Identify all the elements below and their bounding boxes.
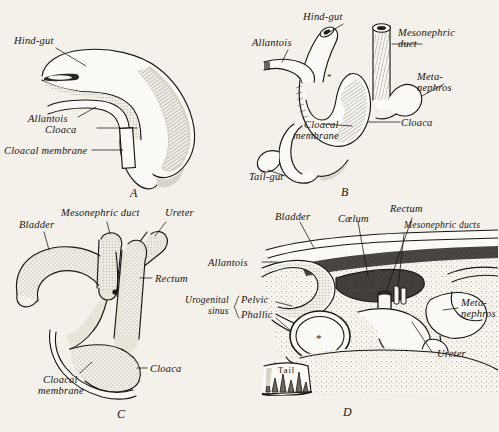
label-ureter-c: Ureter <box>165 207 195 218</box>
asterisk-marker-d: * <box>316 332 322 344</box>
label-hind-gut-a: Hind-gut <box>13 35 54 46</box>
panel-letter-c: C <box>117 407 126 421</box>
label-metanephros-line2-b: nephros <box>417 82 452 93</box>
label-mesonephric-duct-c: Mesonephric duct <box>60 207 141 218</box>
label-cloaca-b: Cloaca <box>401 117 433 128</box>
label-cloacal-membrane-line1-c: Cloacal <box>43 374 78 385</box>
label-hind-gut-b: Hind-gut <box>302 11 343 22</box>
label-cloacal-membrane-line2-b: membrane <box>293 130 339 141</box>
panel-letter-a: A <box>129 186 138 200</box>
label-phallic-d: Phallic <box>240 309 273 320</box>
label-rectum-d: Rectum <box>389 203 423 214</box>
label-cloacal-membrane-a: Cloacal membrane <box>4 145 88 156</box>
label-cloaca-c: Cloaca <box>150 363 182 374</box>
panel-letter-b: B <box>341 185 349 199</box>
label-metanephros-line1-d: Meta- <box>460 297 487 308</box>
label-urogenital-line2-d: sinus <box>208 305 229 316</box>
label-allantois-d: Allantois <box>207 257 248 268</box>
label-ureter-d: Ureter <box>437 348 467 359</box>
label-cloacal-membrane-line2-c: membrane <box>38 385 84 396</box>
label-coelum-d: Cœlum <box>338 213 369 224</box>
label-bladder-d: Bladder <box>275 211 311 222</box>
label-mesonephric-duct-line2-b: duct <box>398 38 418 49</box>
label-allantois-b: Allantois <box>251 37 292 48</box>
panel-letter-d: D <box>342 405 352 419</box>
label-bladder-c: Bladder <box>19 219 55 230</box>
label-allantois-a: Allantois <box>27 113 68 124</box>
label-mesonephric-duct-line1-b: Mesonephric <box>397 27 455 38</box>
label-pelvic-d: Pelvic <box>240 294 269 305</box>
label-rectum-c: Rectum <box>154 273 188 284</box>
label-mesonephric-ducts-d: Mesonephric ducts <box>403 219 480 230</box>
asterisk-marker-b: * <box>327 72 332 82</box>
label-urogenital-line1-d: Urogenital <box>185 294 229 305</box>
anatomical-figure: Hind-gut Allantois Cloaca Cloacal membra… <box>0 0 499 432</box>
label-cloaca-a: Cloaca <box>45 124 77 135</box>
label-tail-gut-b: Tail-gut <box>249 171 284 182</box>
label-metanephros-line1-b: Meta- <box>416 71 443 82</box>
label-cloacal-membrane-line1-b: Cloacal <box>304 119 339 130</box>
label-tail-d: Tail <box>278 365 295 375</box>
label-metanephros-line2-d: nephros <box>461 308 496 319</box>
